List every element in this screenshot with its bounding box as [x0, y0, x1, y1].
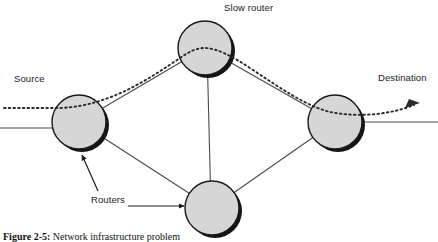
routers-arrow-to-source [82, 155, 98, 191]
source-router-node[interactable] [52, 95, 106, 149]
network-diagram [0, 0, 438, 242]
figure-caption: Figure 2-5: Network infrastructure probl… [3, 231, 180, 242]
label-destination: Destination [378, 72, 427, 83]
packet-path-arrowhead [405, 99, 420, 108]
figure-caption-number: Figure 2-5: [3, 231, 50, 242]
destination-router-node[interactable] [308, 95, 362, 149]
figure-caption-text: Network infrastructure problem [53, 231, 180, 242]
label-routers: Routers [91, 194, 125, 205]
label-slow-router: Slow router [224, 2, 273, 13]
bottom-router-node[interactable] [185, 181, 239, 235]
figure-container: Slow router Source Destination Routers F… [0, 0, 438, 242]
label-source: Source [14, 73, 45, 84]
